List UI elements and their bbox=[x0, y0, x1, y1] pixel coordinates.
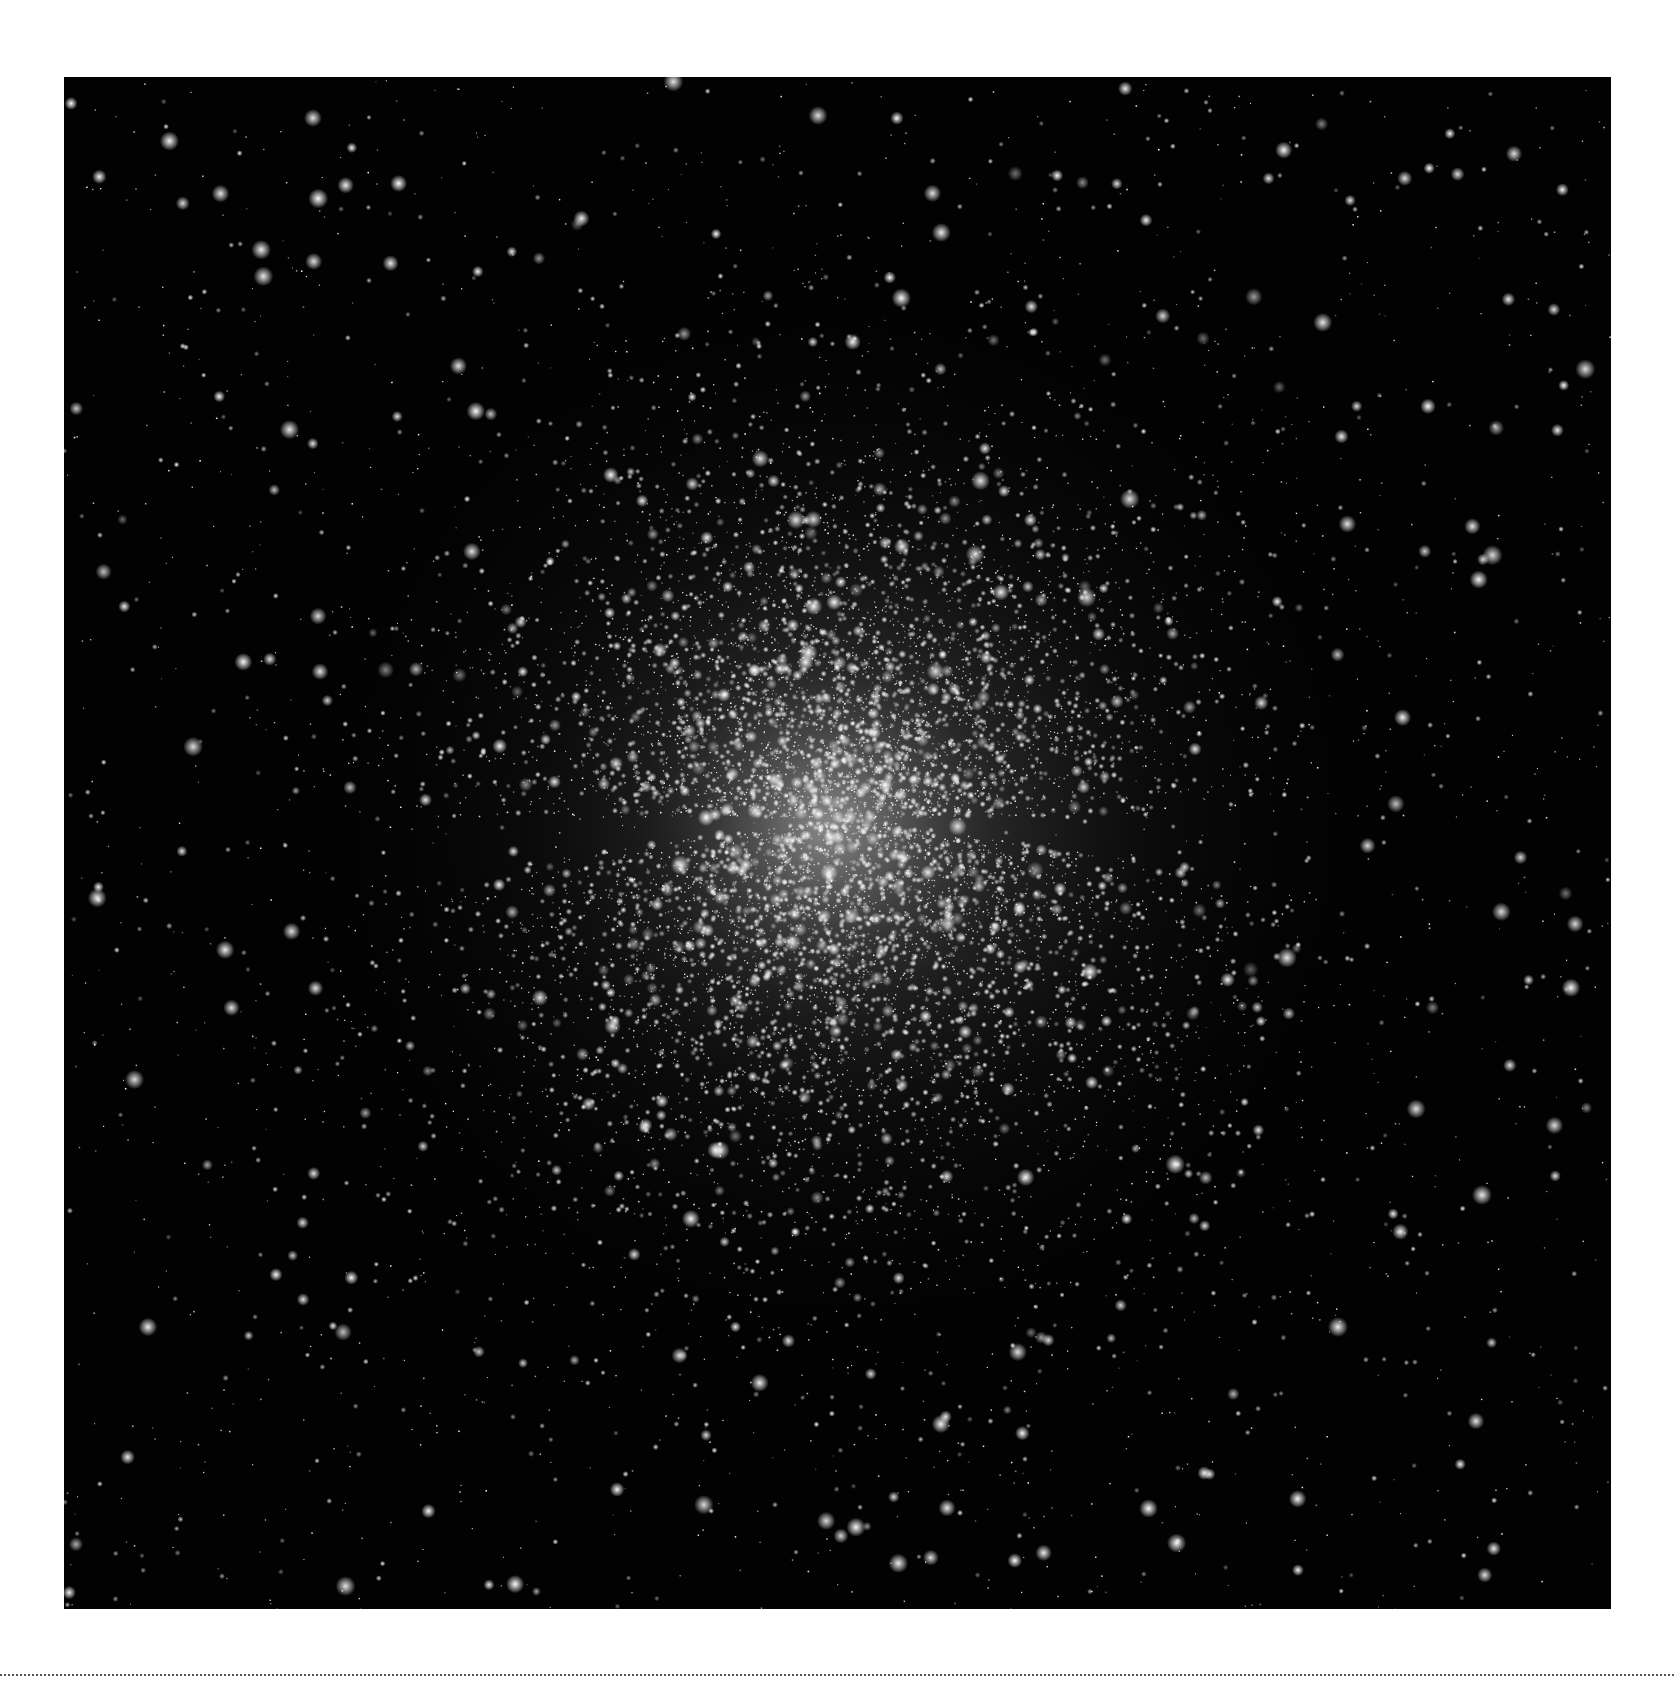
dotted-separator bbox=[0, 1674, 1674, 1676]
star-cluster-image bbox=[64, 77, 1611, 1609]
starfield-canvas bbox=[64, 77, 1611, 1609]
